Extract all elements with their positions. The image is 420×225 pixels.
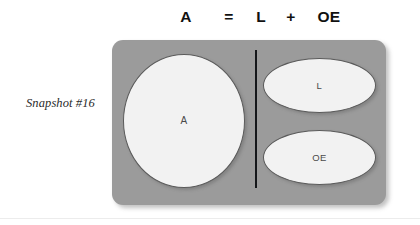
accounting-equation: A = L + OE <box>160 4 390 30</box>
assets-circle: A <box>123 54 245 188</box>
equation-term-owners-equity: OE <box>306 8 352 26</box>
diagram-canvas: A = L + OE Snapshot #16 A L OE <box>0 0 420 225</box>
equation-term-liabilities: L <box>246 8 276 26</box>
liabilities-ellipse-label: L <box>317 81 323 91</box>
bottom-divider <box>0 218 420 219</box>
diagram-panel: A L OE <box>112 40 386 205</box>
owners-equity-ellipse-label: OE <box>312 153 327 163</box>
equation-plus-sign: + <box>276 8 306 26</box>
snapshot-caption: Snapshot #16 <box>26 96 95 111</box>
equation-divider-line <box>255 50 257 188</box>
assets-circle-label: A <box>180 116 187 126</box>
equation-term-assets: A <box>160 8 212 26</box>
owners-equity-ellipse: OE <box>263 130 376 185</box>
liabilities-ellipse: L <box>263 58 376 113</box>
equation-equals-sign: = <box>212 8 246 26</box>
